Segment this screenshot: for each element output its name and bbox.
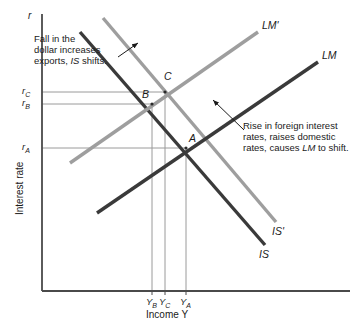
curve-label-IS-prime: IS' [272, 225, 284, 237]
y-axis-title: Interest rate [14, 162, 25, 215]
point-marker-C [163, 90, 166, 93]
curve-label-LM-prime: LM' [262, 19, 279, 31]
lm-shift-annotation-line: rates, raises domestic [243, 131, 349, 142]
lm-shift-annotation-line: Rise in foreign interest [243, 120, 349, 131]
lm-shift-annotation: Rise in foreign interestrates, raises do… [243, 120, 349, 154]
is-shift-annotation-line: exports, IS shifts. [34, 55, 107, 66]
is-shift-annotation-line: Fall in the [34, 33, 107, 44]
curve-label-LM: LM [322, 49, 337, 61]
point-label-C: C [164, 70, 172, 82]
point-label-B: B [142, 88, 149, 100]
x-tick-label-YA: YA [180, 296, 191, 309]
y-tick-label-rA: rA [22, 141, 30, 154]
y-tick-label-rB: rB [22, 97, 30, 110]
x-tick-label-YB: YB [146, 296, 157, 309]
curve-label-IS: IS [259, 248, 269, 260]
x-tick-label-YC: YC [159, 296, 170, 309]
x-axis-title: Income Y [146, 309, 188, 320]
y-axis-variable: r [28, 10, 31, 21]
point-marker-B [150, 102, 153, 105]
point-label-A: A [189, 132, 196, 144]
is-lm-diagram: r Interest rate Income Y ISIS'LMLM'ABCrC… [0, 0, 358, 330]
point-marker-A [184, 146, 187, 149]
is-shift-annotation-line: dollar increases [34, 44, 107, 55]
lm-shift-annotation-line: rates, causes LM to shift. [243, 142, 349, 153]
is-shift-annotation: Fall in thedollar increasesexports, IS s… [34, 33, 107, 67]
y-tick-label-rC: rC [22, 85, 30, 98]
